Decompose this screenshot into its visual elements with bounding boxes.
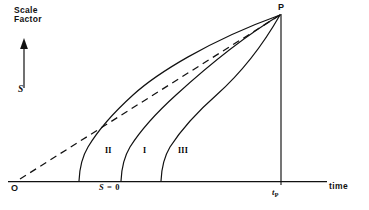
- baseline-s-equals-zero-label: S = 0: [99, 183, 120, 192]
- figure-canvas: [0, 0, 369, 210]
- curve-label-iii: III: [178, 146, 188, 155]
- x-tick-subscript: P: [274, 191, 278, 198]
- x-axis-label: time: [329, 182, 348, 191]
- y-axis-caption-line2: Factor: [14, 15, 42, 24]
- x-tick-label: tP: [272, 188, 278, 198]
- baseline-s-rest: = 0: [104, 182, 120, 192]
- curve-label-ii: II: [105, 146, 112, 155]
- curve-label-i: I: [143, 146, 146, 155]
- curve-ii: [79, 15, 280, 181]
- figure-container: ScaleFactor S O S = 0 P tP time II I III: [0, 0, 369, 210]
- y-axis-symbol: S: [18, 84, 23, 94]
- dashed-linear-line: [20, 15, 280, 179]
- origin-label: O: [11, 184, 18, 194]
- s-axis-arrow: [20, 38, 28, 88]
- y-axis-caption: ScaleFactor: [14, 6, 42, 24]
- apex-label: P: [278, 3, 284, 13]
- curve-i: [121, 15, 280, 181]
